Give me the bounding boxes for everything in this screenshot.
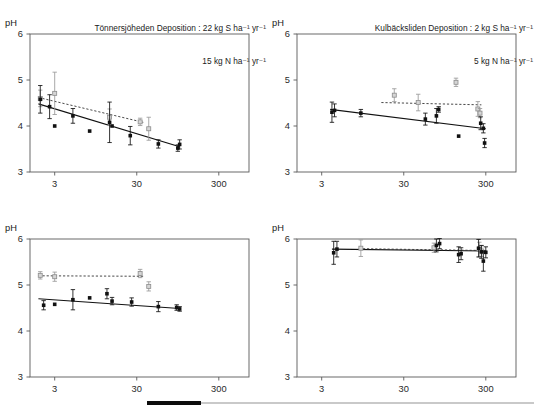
y-tick-label: 4 bbox=[285, 326, 290, 336]
data-point-marker bbox=[88, 296, 92, 300]
data-point-marker bbox=[53, 91, 57, 95]
series-black-filled-squares bbox=[331, 239, 488, 272]
data-point-marker bbox=[454, 80, 458, 84]
data-point-marker bbox=[147, 127, 151, 131]
plot-canvas-bottom-right: 3456330300 bbox=[267, 205, 534, 410]
series-grey-open-squares bbox=[38, 269, 151, 291]
data-point-marker bbox=[147, 284, 151, 288]
data-point-marker bbox=[482, 127, 486, 131]
data-point-marker bbox=[128, 134, 132, 138]
footer-grey-line bbox=[201, 402, 534, 404]
data-point-marker bbox=[416, 101, 420, 105]
data-point-marker bbox=[435, 114, 439, 118]
x-tick-label: 30 bbox=[399, 179, 409, 189]
x-tick-label: 30 bbox=[132, 179, 142, 189]
data-point-marker bbox=[138, 120, 142, 124]
data-point-marker bbox=[138, 272, 142, 276]
x-tick-label: 3 bbox=[52, 384, 57, 394]
data-point-marker bbox=[333, 109, 337, 113]
x-tick-label: 300 bbox=[211, 384, 227, 394]
data-point-marker bbox=[459, 252, 463, 256]
data-point-marker bbox=[483, 141, 487, 145]
series-black-filled-squares bbox=[330, 102, 487, 148]
data-point-marker bbox=[335, 247, 339, 251]
plot-canvas-bottom-left: 3456330300 bbox=[0, 205, 267, 410]
data-point-marker bbox=[53, 275, 57, 279]
data-point-marker bbox=[478, 111, 482, 115]
data-point-marker bbox=[42, 303, 46, 307]
y-tick-label: 5 bbox=[285, 280, 290, 290]
data-point-marker bbox=[482, 259, 486, 263]
data-point-marker bbox=[48, 105, 52, 109]
y-tick-label: 5 bbox=[285, 75, 290, 85]
panel-bottom-left: pH 3456330300 bbox=[0, 205, 267, 410]
x-tick-label: 3 bbox=[52, 179, 57, 189]
series-grey-open-squares bbox=[38, 72, 151, 140]
y-tick-label: 5 bbox=[18, 75, 23, 85]
y-tick-label: 4 bbox=[285, 121, 290, 131]
data-point-marker bbox=[437, 108, 441, 112]
y-tick-label: 6 bbox=[18, 29, 23, 39]
panel-bottom-right: pH 3456330300 bbox=[267, 205, 534, 410]
data-point-marker bbox=[53, 303, 57, 307]
dashed-regression bbox=[381, 103, 481, 105]
data-point-marker bbox=[332, 251, 336, 255]
y-tick-label: 5 bbox=[18, 280, 23, 290]
data-point-marker bbox=[110, 124, 114, 128]
x-tick-label: 300 bbox=[211, 179, 227, 189]
data-point-marker bbox=[105, 292, 109, 296]
dashed-regression bbox=[38, 97, 143, 122]
data-point-marker bbox=[178, 143, 182, 147]
panel-top-right: Kulbäcksliden Deposition : 2 kg S ha⁻¹ y… bbox=[267, 0, 534, 205]
data-point-marker bbox=[71, 298, 75, 302]
y-tick-label: 3 bbox=[285, 167, 290, 177]
plot-canvas-top-right: 3456330300 bbox=[267, 0, 534, 205]
x-tick-label: 300 bbox=[478, 179, 494, 189]
y-tick-label: 4 bbox=[18, 121, 23, 131]
data-point-marker bbox=[479, 121, 483, 125]
data-point-marker bbox=[157, 305, 161, 309]
data-point-marker bbox=[484, 251, 488, 255]
plot-frame bbox=[30, 239, 249, 377]
data-point-marker bbox=[457, 134, 461, 138]
y-tick-label: 6 bbox=[285, 29, 290, 39]
x-tick-label: 30 bbox=[399, 384, 409, 394]
x-tick-label: 3 bbox=[319, 384, 324, 394]
x-tick-label: 30 bbox=[132, 384, 142, 394]
y-tick-label: 4 bbox=[18, 326, 23, 336]
data-point-marker bbox=[438, 242, 442, 246]
y-tick-label: 6 bbox=[18, 234, 23, 244]
data-point-marker bbox=[71, 114, 75, 118]
data-point-marker bbox=[53, 124, 57, 128]
data-point-marker bbox=[359, 246, 363, 250]
footer-black-bar bbox=[147, 401, 201, 405]
x-tick-label: 3 bbox=[319, 179, 324, 189]
data-point-marker bbox=[435, 244, 439, 248]
y-tick-label: 3 bbox=[18, 372, 23, 382]
data-point-marker bbox=[110, 299, 114, 303]
data-point-marker bbox=[392, 93, 396, 97]
data-point-marker bbox=[88, 129, 92, 133]
data-point-marker bbox=[477, 246, 481, 250]
x-tick-label: 300 bbox=[478, 384, 494, 394]
data-point-marker bbox=[476, 107, 480, 111]
y-tick-label: 3 bbox=[285, 372, 290, 382]
data-point-marker bbox=[130, 300, 134, 304]
panel-top-left: Tönnersjöheden Deposition : 22 kg S ha⁻¹… bbox=[0, 0, 267, 205]
data-point-marker bbox=[38, 273, 42, 277]
solid-regression bbox=[330, 109, 486, 128]
plot-canvas-top-left: 3456330300 bbox=[0, 0, 267, 205]
data-point-marker bbox=[178, 307, 182, 311]
data-point-marker bbox=[38, 98, 42, 102]
y-tick-label: 6 bbox=[285, 234, 290, 244]
data-point-marker bbox=[424, 117, 428, 121]
data-point-marker bbox=[108, 121, 112, 125]
data-point-marker bbox=[359, 111, 363, 115]
y-tick-label: 3 bbox=[18, 167, 23, 177]
series-grey-open-squares bbox=[359, 240, 484, 257]
data-point-marker bbox=[157, 142, 161, 146]
